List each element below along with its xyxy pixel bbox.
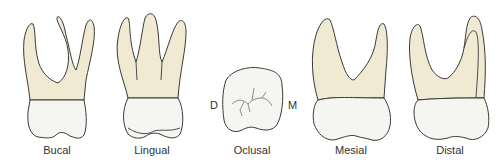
label-oclusal: Oclusal (212, 144, 292, 156)
orientation-distal-marker: D (210, 99, 218, 111)
tooth-lingual (117, 14, 186, 138)
label-bucal: Bucal (17, 144, 97, 156)
tooth-distal (409, 16, 488, 139)
orientation-mesial-marker: M (288, 99, 297, 111)
label-mesial: Mesial (311, 144, 391, 156)
tooth-bucal (24, 17, 95, 139)
tooth-mesial (312, 19, 390, 141)
tooth-diagram (0, 0, 503, 165)
tooth-oclusal (223, 68, 283, 132)
label-lingual: Lingual (112, 144, 192, 156)
label-distal: Distal (410, 144, 490, 156)
